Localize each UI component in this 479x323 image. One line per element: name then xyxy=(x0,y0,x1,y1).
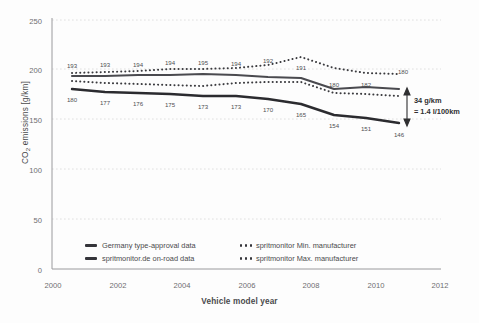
data-label-type-approval: 182 xyxy=(354,81,378,88)
dotted-line-marker-icon xyxy=(240,244,252,247)
plot-area xyxy=(0,0,479,323)
data-label-on-road: 151 xyxy=(354,125,378,132)
data-label-on-road: 170 xyxy=(256,106,280,113)
data-label-type-approval: 193 xyxy=(60,62,84,69)
x-axis-title: Vehicle model year xyxy=(0,297,479,306)
data-label-type-approval: 193 xyxy=(93,61,117,68)
legend-item-min-manufacturer[interactable]: spritmonitor Min. manufacturer xyxy=(240,241,356,250)
data-label-on-road: 173 xyxy=(191,103,215,110)
legend-label: Germany type-approval data xyxy=(102,241,196,250)
data-label-on-road: 175 xyxy=(158,101,182,108)
data-label-on-road: 173 xyxy=(224,103,248,110)
data-label-on-road: 180 xyxy=(60,96,84,103)
gap-annotation-value: 34 g/km xyxy=(414,96,442,107)
data-label-on-road: 146 xyxy=(387,131,411,138)
legend-item-max-manufacturer[interactable]: spritmonitor Max. manufacturer xyxy=(240,254,358,263)
data-label-type-approval: 192 xyxy=(256,57,280,64)
data-label-on-road: 177 xyxy=(93,99,117,106)
series-line-type-approval xyxy=(72,74,399,89)
data-label-type-approval: 194 xyxy=(126,61,150,68)
data-label-type-approval: 180 xyxy=(322,81,346,88)
legend-item-type-approval[interactable]: Germany type-approval data xyxy=(85,241,240,250)
legend-label: spritmonitor Min. manufacturer xyxy=(256,241,356,250)
data-label-on-road: 165 xyxy=(289,111,313,118)
dotted-line-marker-icon xyxy=(240,257,252,260)
data-label-type-approval: 195 xyxy=(191,59,215,66)
data-label-type-approval: 194 xyxy=(224,60,248,67)
legend-item-on-road[interactable]: spritmonitor.de on-road data xyxy=(85,254,240,263)
gap-annotation-equiv: = 1.4 l/100km xyxy=(414,107,460,118)
data-label-type-approval: 194 xyxy=(158,59,182,66)
solid-line-marker-icon xyxy=(85,257,97,260)
data-label-type-approval: 180 xyxy=(391,68,415,75)
chart-legend: Germany type-approval data spritmonitor … xyxy=(85,239,358,265)
gap-annotation-arrow xyxy=(404,88,410,126)
data-label-type-approval: 191 xyxy=(289,64,313,71)
solid-line-marker-icon xyxy=(85,244,97,247)
data-label-on-road: 176 xyxy=(126,100,150,107)
legend-label: spritmonitor.de on-road data xyxy=(102,254,194,263)
data-label-on-road: 154 xyxy=(322,122,346,129)
chart-figure: CO2 emissions [g/km] 250 200 150 100 50 … xyxy=(0,0,479,323)
legend-label: spritmonitor Max. manufacturer xyxy=(256,254,358,263)
